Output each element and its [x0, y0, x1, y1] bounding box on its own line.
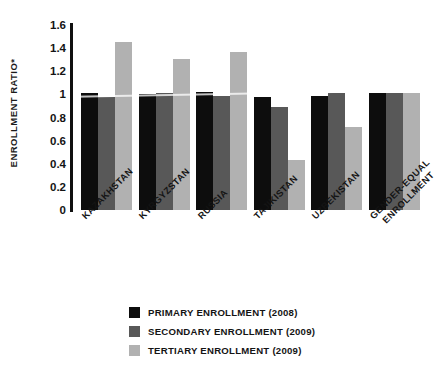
- legend-label: PRIMARY ENROLLMENT (2008): [148, 307, 298, 318]
- bar: [254, 97, 271, 210]
- bar-group: [196, 25, 247, 210]
- legend-color-swatch: [129, 345, 140, 356]
- bar: [230, 52, 247, 210]
- y-axis-tick-0-6: 0.6: [30, 135, 66, 147]
- y-axis-tick-0-2: 0.2: [30, 181, 66, 193]
- y-axis-line: [70, 23, 73, 212]
- legend-item: SECONDARY ENROLLMENT (2009): [129, 322, 389, 341]
- enrollment-ratio-bar-chart: ENROLLMENT RATIO* 1.61.41.210.80.60.40.2…: [0, 0, 441, 378]
- bar: [345, 127, 362, 210]
- y-axis-tick-1-2: 1.2: [30, 65, 66, 77]
- bar: [139, 94, 156, 210]
- bar: [369, 93, 386, 210]
- y-axis-title: ENROLLMENT RATIO*: [8, 18, 26, 208]
- y-axis-tick-0-4: 0.4: [30, 158, 66, 170]
- bar: [311, 96, 328, 210]
- chart-legend: PRIMARY ENROLLMENT (2008)SECONDARY ENROL…: [129, 303, 389, 360]
- legend-label: SECONDARY ENROLLMENT (2009): [148, 326, 315, 337]
- bar: [81, 93, 98, 210]
- y-axis-tick-1: 1: [30, 88, 66, 100]
- legend-item: TERTIARY ENROLLMENT (2009): [129, 341, 389, 360]
- y-axis-tick-labels: 1.61.41.210.80.60.40.20: [30, 0, 66, 378]
- legend-item: PRIMARY ENROLLMENT (2008): [129, 303, 389, 322]
- legend-color-swatch: [129, 326, 140, 337]
- y-axis-tick-0-8: 0.8: [30, 112, 66, 124]
- bar: [196, 92, 213, 210]
- legend-color-swatch: [129, 307, 140, 318]
- y-axis-tick-1-6: 1.6: [30, 19, 66, 31]
- legend-label: TERTIARY ENROLLMENT (2009): [148, 345, 302, 356]
- y-axis-tick-1-4: 1.4: [30, 42, 66, 54]
- x-axis-category-labels: KAZAKHSTANKYRGYZSTANRUSSIATAJIKISTANUZBE…: [0, 211, 441, 306]
